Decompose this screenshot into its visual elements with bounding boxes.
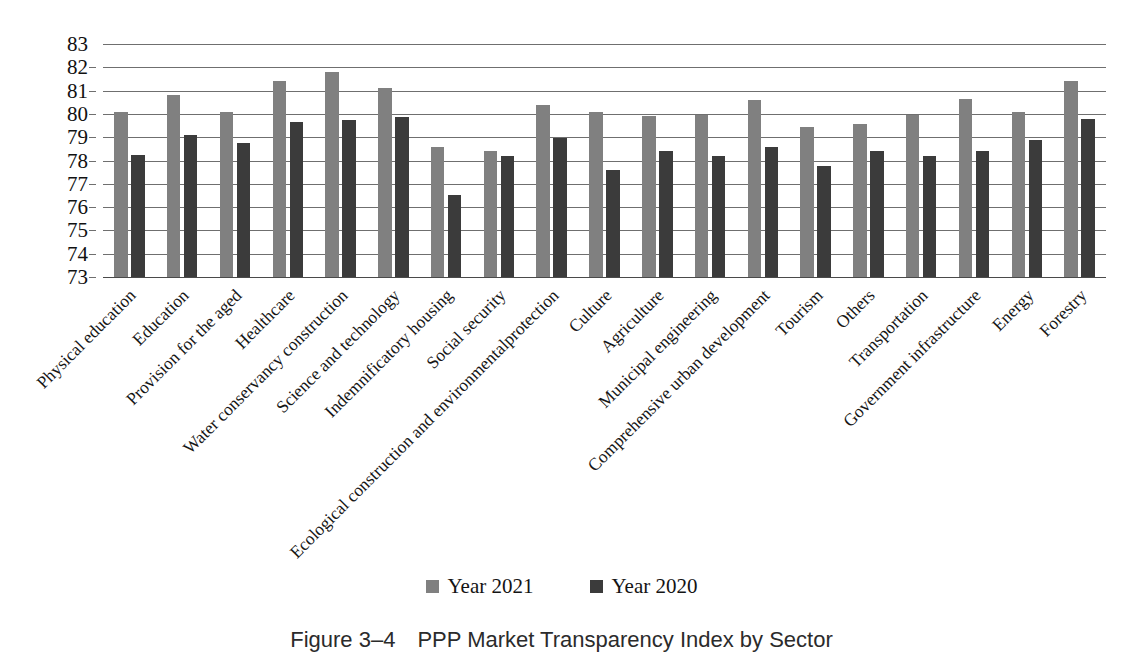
legend-swatch-icon bbox=[426, 580, 439, 593]
y-tick-label-74: 74 bbox=[67, 243, 88, 264]
y-tick-80 bbox=[89, 114, 96, 115]
y-tick-label-82: 82 bbox=[67, 57, 88, 78]
bar bbox=[553, 138, 567, 277]
y-tick-label-76: 76 bbox=[67, 197, 88, 218]
bar bbox=[1029, 140, 1043, 277]
y-tick-75 bbox=[89, 230, 96, 231]
bar bbox=[765, 147, 779, 277]
y-tick-label-75: 75 bbox=[67, 220, 88, 241]
legend-label: Year 2021 bbox=[448, 576, 534, 597]
y-tick-78 bbox=[89, 161, 96, 162]
y-axis-labels: 8382818079787776757473 bbox=[50, 44, 96, 277]
x-axis-labels: Physical educationEducationProvision for… bbox=[103, 277, 1106, 507]
y-tick-82 bbox=[89, 67, 96, 68]
figure-caption-text: PPP Market Transparency Index by Sector bbox=[417, 627, 832, 652]
bar bbox=[114, 112, 128, 277]
legend-item: Year 2021 bbox=[426, 576, 534, 597]
y-tick-label-83: 83 bbox=[67, 34, 88, 55]
y-tick-label-77: 77 bbox=[67, 173, 88, 194]
y-tick-label-79: 79 bbox=[67, 127, 88, 148]
legend-label: Year 2020 bbox=[612, 576, 698, 597]
figure-number: Figure 3–4 bbox=[290, 627, 395, 652]
legend-swatch-icon bbox=[590, 580, 603, 593]
y-tick-77 bbox=[89, 184, 96, 185]
y-tick-74 bbox=[89, 254, 96, 255]
bar bbox=[290, 122, 304, 277]
figure-container: 8382818079787776757473 Physical educatio… bbox=[0, 0, 1123, 652]
y-tick-79 bbox=[89, 137, 96, 138]
y-tick-81 bbox=[89, 91, 96, 92]
bar bbox=[131, 155, 145, 277]
figure-caption: Figure 3–4PPP Market Transparency Index … bbox=[0, 627, 1123, 652]
y-tick-label-80: 80 bbox=[67, 103, 88, 124]
bar bbox=[923, 156, 937, 277]
bar bbox=[184, 135, 198, 277]
bar bbox=[712, 156, 726, 277]
y-tick-label-81: 81 bbox=[67, 80, 88, 101]
bar-group bbox=[103, 44, 156, 277]
y-tick-73 bbox=[89, 277, 96, 278]
y-tick-76 bbox=[89, 207, 96, 208]
y-tick-label-73: 73 bbox=[67, 267, 88, 288]
bar bbox=[976, 151, 990, 277]
bar bbox=[237, 143, 251, 277]
legend-item: Year 2020 bbox=[590, 576, 698, 597]
chart-legend: Year 2021Year 2020 bbox=[0, 576, 1123, 597]
y-tick-label-78: 78 bbox=[67, 150, 88, 171]
